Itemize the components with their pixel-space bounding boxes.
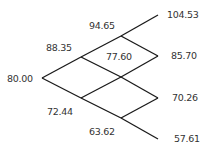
node-label-ud: 77.60	[106, 52, 132, 62]
node-label-d: 72.44	[47, 107, 73, 117]
node-label-udd: 70.26	[172, 93, 198, 103]
binomial-tree-diagram: 80.0088.3572.4494.6577.6063.62104.5385.7…	[0, 0, 205, 154]
node-label-u: 88.35	[46, 43, 72, 53]
node-label-uud: 85.70	[171, 51, 197, 61]
tree-edge-ud-udd	[121, 77, 158, 98]
node-label-n0: 80.00	[7, 74, 33, 84]
tree-edge-dd-udd	[121, 98, 158, 118]
node-label-uuu: 104.53	[167, 10, 198, 20]
tree-edge-d-ud	[81, 77, 121, 98]
tree-edge-dd-ddd	[121, 118, 158, 139]
node-label-uu: 94.65	[89, 21, 115, 31]
tree-edge-n0-u	[42, 57, 81, 78]
tree-edge-d-dd	[81, 98, 121, 118]
node-label-dd: 63.62	[89, 127, 115, 137]
tree-edge-uu-uuu	[121, 15, 158, 36]
node-label-ddd: 57.61	[174, 134, 200, 144]
tree-edge-n0-d	[42, 78, 81, 98]
